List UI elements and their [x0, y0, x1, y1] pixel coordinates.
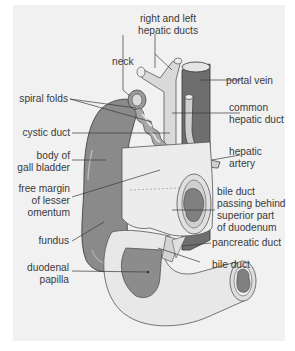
- label-fundus: fundus: [0, 235, 69, 247]
- label-neck: neck: [112, 56, 134, 68]
- label-body-of-gall-bladder: body of gall bladder: [0, 150, 70, 174]
- label-cystic-duct: cystic duct: [0, 127, 70, 139]
- label-spiral-folds: spiral folds: [0, 93, 68, 105]
- label-pancreatic-duct: pancreatic duct: [212, 237, 281, 249]
- label-portal-vein: portal vein: [226, 75, 273, 87]
- label-bile-duct: bile duct: [212, 259, 250, 271]
- label-common-hepatic-duct: common hepatic duct: [229, 102, 284, 126]
- label-free-margin-lesser-omentum: free margin of lesser omentum: [0, 183, 70, 219]
- label-right-left-hepatic-ducts: right and left hepatic ducts: [124, 13, 212, 37]
- label-bile-duct-passing-behind: bile duct passing behind superior part o…: [217, 186, 286, 234]
- gallbladder-anatomy-illustration: [0, 0, 295, 351]
- label-duodenal-papilla: duodenal papilla: [0, 262, 69, 286]
- label-hepatic-artery: hepatic artery: [229, 146, 262, 170]
